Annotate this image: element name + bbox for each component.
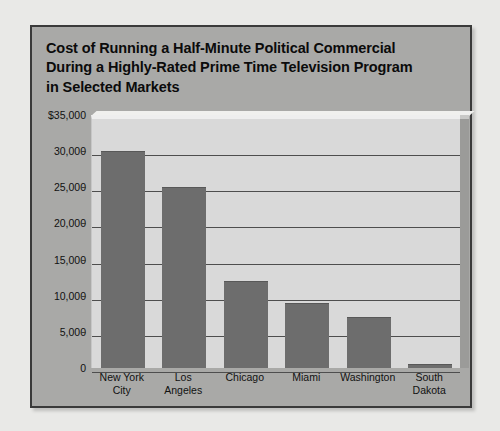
x-axis-tick-label: Chicago	[214, 371, 276, 384]
gridline	[92, 264, 460, 265]
chart-panel: Cost of Running a Half-Minute Political …	[30, 25, 472, 408]
chart-title: Cost of Running a Half-Minute Political …	[46, 39, 458, 97]
y-axis-tick-mark	[81, 332, 86, 333]
x-axis-tick-label-line: Chicago	[214, 371, 276, 384]
x-axis-tick-label-line: Washington	[337, 371, 399, 384]
y-axis-tick-mark	[81, 296, 86, 297]
chart-title-line-1: Cost of Running a Half-Minute Political …	[46, 39, 458, 58]
x-axis-tick-label-line: City	[91, 384, 153, 397]
gridline	[92, 336, 460, 337]
x-axis-tick-label: Washington	[337, 371, 399, 384]
x-axis-tick-label-line: New York	[91, 371, 153, 384]
x-axis-tick-label-line: Los	[153, 371, 215, 384]
y-axis-tick-mark	[81, 260, 86, 261]
x-axis-tick-label: Miami	[276, 371, 338, 384]
bar	[101, 151, 145, 368]
y-axis-tick-label: $35,000	[48, 109, 86, 121]
y-axis-tick-mark	[81, 187, 86, 188]
x-axis-tick-label: LosAngeles	[153, 371, 215, 398]
figure-root: Cost of Running a Half-Minute Political …	[0, 0, 500, 431]
y-axis-tick-label: 0	[80, 362, 86, 374]
x-axis-tick-label: SouthDakota	[399, 371, 461, 398]
bar	[408, 364, 452, 368]
chart-title-line-2: During a Highly-Rated Prime Time Televis…	[46, 58, 458, 77]
x-axis-tick-label-line: Angeles	[153, 384, 215, 397]
x-axis-tick-label-line: Dakota	[399, 384, 461, 397]
bar	[162, 187, 206, 368]
bar	[347, 317, 391, 368]
bar	[224, 281, 268, 368]
plot-area-right-bevel	[460, 115, 469, 368]
gridline	[92, 227, 460, 228]
chart-title-line-3: in Selected Markets	[46, 78, 458, 97]
gridline	[92, 155, 460, 156]
plot-area	[91, 115, 460, 368]
y-axis-tick-labels: $35,00030,00025,00020,00015,00010,0005,0…	[32, 115, 86, 368]
y-axis-tick-mark	[81, 223, 86, 224]
x-axis-tick-labels: New YorkCityLosAngelesChicagoMiamiWashin…	[91, 371, 460, 411]
x-axis-tick-label-line: Miami	[276, 371, 338, 384]
y-axis-tick-mark	[81, 151, 86, 152]
bar	[285, 303, 329, 368]
gridline	[92, 191, 460, 192]
x-axis-tick-label-line: South	[399, 371, 461, 384]
gridline	[92, 300, 460, 301]
x-axis-tick-label: New YorkCity	[91, 371, 153, 398]
